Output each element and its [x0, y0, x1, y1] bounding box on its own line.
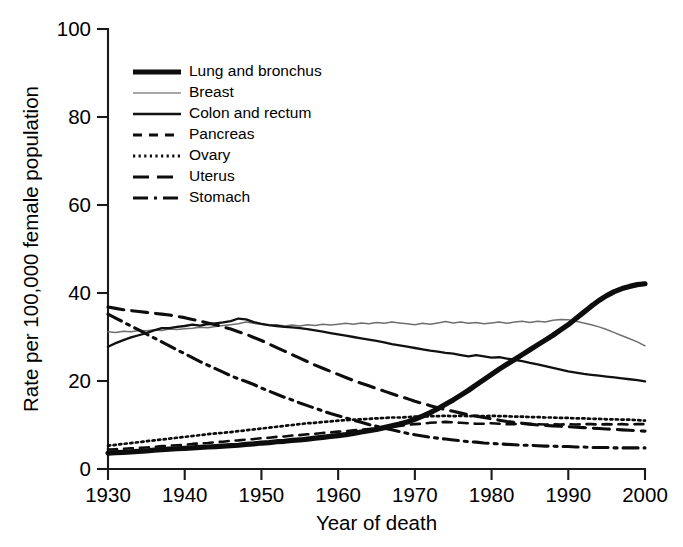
x-tick-label: 1950	[239, 483, 285, 506]
x-tick-label: 1930	[85, 483, 131, 506]
chart-series	[108, 284, 645, 453]
legend-label-colon: Colon and rectum	[189, 104, 311, 121]
x-tick-label: 2000	[622, 483, 668, 506]
legend-label-ovary: Ovary	[189, 146, 231, 163]
y-axis-title: Rate per 100,000 female population	[19, 86, 42, 412]
chart-legend: Lung and bronchusBreastColon and rectumP…	[133, 62, 322, 205]
x-axis-title: Year of death	[316, 511, 437, 534]
line-chart: 0204060801001930194019501960197019801990…	[0, 0, 683, 547]
y-tick-label: 100	[57, 17, 91, 40]
y-tick-label: 80	[68, 105, 91, 128]
legend-label-uterus: Uterus	[189, 167, 235, 184]
legend-label-lung: Lung and bronchus	[189, 62, 322, 79]
figure-container: 0204060801001930194019501960197019801990…	[0, 0, 683, 547]
x-tick-label: 1990	[545, 483, 591, 506]
y-tick-label: 60	[68, 193, 91, 216]
legend-label-pancreas: Pancreas	[189, 125, 255, 142]
y-tick-label: 20	[68, 369, 91, 392]
x-tick-label: 1980	[469, 483, 515, 506]
legend-label-breast: Breast	[189, 83, 234, 100]
x-tick-label: 1970	[392, 483, 438, 506]
y-tick-label: 40	[68, 281, 91, 304]
series-line-lung-and-bronchus	[108, 284, 645, 453]
x-tick-label: 1940	[162, 483, 208, 506]
x-tick-label: 1960	[315, 483, 361, 506]
y-tick-label: 0	[80, 457, 91, 480]
legend-label-stomach: Stomach	[189, 188, 250, 205]
